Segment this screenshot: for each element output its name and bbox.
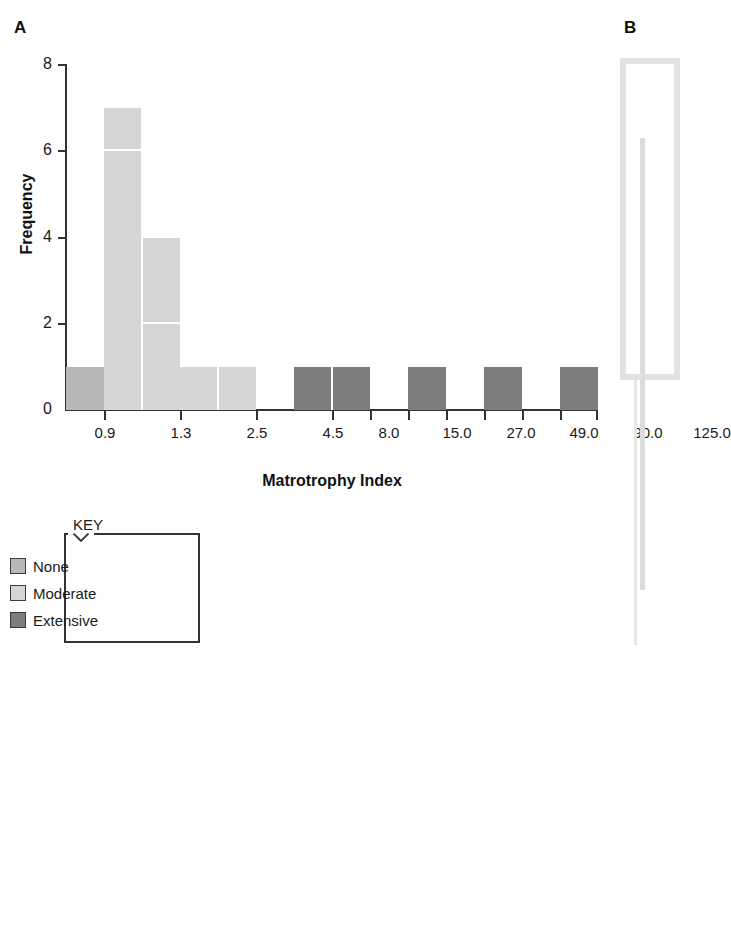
stack-separator-1 bbox=[104, 149, 142, 151]
bar-gap-2 bbox=[217, 367, 219, 410]
x-tick-label-6: 27.0 bbox=[506, 424, 535, 441]
x-tick-8 bbox=[522, 411, 524, 420]
legend-notch-icon bbox=[73, 533, 89, 542]
x-tick-label-4: 8.0 bbox=[379, 424, 400, 441]
panel-b-vertical-rule bbox=[634, 380, 637, 645]
x-tick-label-5: 15.0 bbox=[442, 424, 471, 441]
bar-extensive-2 bbox=[332, 367, 370, 410]
x-tick-2 bbox=[256, 411, 258, 420]
bar-moderate-3 bbox=[180, 367, 218, 410]
legend-title: KEY bbox=[70, 516, 106, 533]
bar-extensive-5 bbox=[560, 367, 598, 410]
x-tick-label-9: 125.0 bbox=[693, 424, 731, 441]
y-tick-label-8: 8 bbox=[18, 55, 52, 73]
legend-label-moderate: Moderate bbox=[33, 586, 96, 601]
x-tick-label-1: 1.3 bbox=[171, 424, 192, 441]
y-tick-label-0: 0 bbox=[18, 400, 52, 418]
y-tick-2 bbox=[58, 323, 66, 325]
y-tick-6 bbox=[58, 150, 66, 152]
bar-extensive-4 bbox=[484, 367, 522, 410]
x-tick-4 bbox=[370, 411, 372, 420]
x-tick-label-2: 2.5 bbox=[247, 424, 268, 441]
bar-gap-3 bbox=[331, 367, 333, 410]
x-axis-title: Matrotrophy Index bbox=[66, 472, 598, 490]
bar-extensive-3 bbox=[408, 367, 446, 410]
x-tick-1 bbox=[180, 411, 182, 420]
x-tick-end bbox=[596, 411, 598, 420]
bar-extensive-1 bbox=[294, 367, 332, 410]
panel-letter-b: B bbox=[624, 18, 637, 38]
x-tick-5 bbox=[408, 411, 410, 420]
legend-label-extensive: Extensive bbox=[33, 613, 98, 628]
plot-area bbox=[66, 65, 596, 410]
x-tick-6 bbox=[446, 411, 448, 420]
panel-b-inner-frame bbox=[640, 138, 680, 590]
x-tick-label-3: 4.5 bbox=[323, 424, 344, 441]
legend-item-extensive[interactable]: Extensive bbox=[10, 612, 98, 628]
legend-label-none: None bbox=[33, 559, 69, 574]
bar-moderate-1 bbox=[104, 108, 142, 410]
y-tick-8 bbox=[58, 64, 66, 66]
x-tick-3 bbox=[332, 411, 334, 420]
legend-item-none[interactable]: None bbox=[10, 558, 69, 574]
bar-moderate-4 bbox=[218, 367, 256, 410]
stack-separator-2 bbox=[142, 322, 180, 324]
legend-swatch-none bbox=[10, 558, 26, 574]
legend-swatch-moderate bbox=[10, 585, 26, 601]
y-tick-label-2: 2 bbox=[18, 314, 52, 332]
x-tick-label-7: 49.0 bbox=[569, 424, 598, 441]
x-tick-7 bbox=[484, 411, 486, 420]
bar-gap-1 bbox=[141, 108, 143, 410]
legend-swatch-extensive bbox=[10, 612, 26, 628]
bar-none-1 bbox=[66, 367, 104, 410]
legend-item-moderate[interactable]: Moderate bbox=[10, 585, 96, 601]
x-tick-0 bbox=[104, 411, 106, 420]
x-tick-9 bbox=[560, 411, 562, 420]
x-tick-label-0: 0.9 bbox=[95, 424, 116, 441]
y-axis-title: Frequency bbox=[18, 124, 36, 304]
y-tick-4 bbox=[58, 237, 66, 239]
